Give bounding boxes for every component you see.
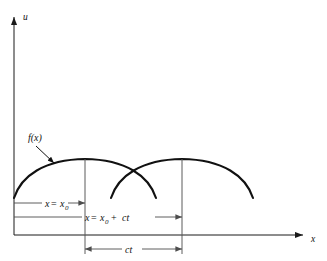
dimension-x0-label-x: x [44,198,50,209]
function-callout-group [36,146,54,163]
function-label: f(x) [28,132,43,144]
wave-translation-figure: u x f(x) x = x 0 x = x 0 + ct ct [0,0,327,261]
y-axis-label: u [23,12,28,22]
dimension-x0-label-equals: = [51,198,57,209]
dimension-x0ct-label-subscript: 0 [105,218,109,226]
axis-group [14,17,303,235]
dimension-ct-group [85,235,182,254]
x-axis-label: x [310,234,316,244]
dimension-x0ct-label-x: x [84,212,90,223]
dimension-ct-label: ct [125,244,132,255]
dimension-x0-label: x = x 0 [44,198,69,212]
dimension-x0ct-label-plus: + [111,212,117,223]
function-label-leader-line [36,146,54,163]
dimension-x0-plus-ct-label: x = x 0 + ct [84,212,129,226]
dimension-x0-label-subscript: 0 [65,204,69,212]
dimension-x0ct-label-ct: ct [122,212,129,223]
diagram-canvas: u x f(x) x = x 0 x = x 0 + ct ct [0,0,327,261]
dimension-x0ct-label-equals: = [91,212,97,223]
curve-group [14,159,253,198]
